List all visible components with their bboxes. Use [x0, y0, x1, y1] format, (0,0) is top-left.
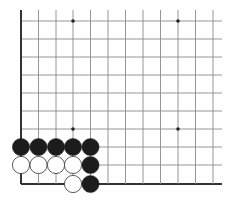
- star-point-icon: [176, 19, 180, 23]
- black-stone: [47, 138, 64, 155]
- white-stone: [12, 156, 29, 173]
- star-point-icon: [71, 127, 75, 131]
- white-stone: [64, 175, 81, 192]
- go-board: [0, 0, 235, 204]
- white-stone: [30, 156, 47, 173]
- black-stone: [82, 156, 99, 173]
- white-stone: [64, 156, 81, 173]
- black-stone: [82, 138, 99, 155]
- black-stone: [64, 138, 81, 155]
- black-stone: [12, 138, 29, 155]
- white-stone: [47, 156, 64, 173]
- black-stone: [30, 138, 47, 155]
- star-point-icon: [176, 127, 180, 131]
- star-point-icon: [71, 19, 75, 23]
- black-stone: [82, 175, 99, 192]
